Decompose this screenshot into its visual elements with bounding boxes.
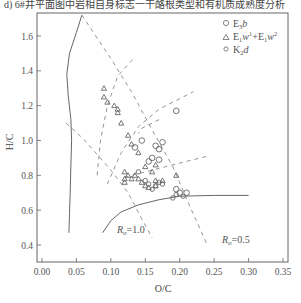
figure-caption: d) 6#井平面图中岩相自身标志一干酪根类型和有机质成熟度分析 — [4, 0, 285, 11]
svg-text:Ro=0.5: Ro=0.5 — [221, 234, 250, 247]
y-tick-label: 1.6 — [21, 32, 33, 42]
legend-label-e3b: E3b — [233, 18, 247, 30]
y-tick-label: 1.2 — [21, 101, 33, 111]
annot1-main: R — [116, 224, 123, 235]
annot1-tail: =1.0 — [127, 224, 145, 235]
data-point-series-1 — [132, 145, 138, 151]
data-point-series-1 — [146, 159, 152, 165]
data-point-series-2 — [136, 150, 141, 155]
data-point-series-2 — [125, 133, 130, 138]
evolution-dashed-line-1 — [82, 15, 207, 245]
data-point-series-1 — [173, 108, 179, 114]
x-tick-label: 0.25 — [206, 267, 223, 277]
data-point-series-2 — [105, 100, 110, 105]
x-tick-label: 0.30 — [240, 267, 257, 277]
chart: d) 6#井平面图中岩相自身标志一干酪根类型和有机质成熟度分析 0.000.05… — [0, 0, 301, 303]
data-point-series-1 — [173, 186, 179, 192]
data-point-series-1 — [160, 139, 166, 145]
data-point-series-2 — [129, 141, 134, 146]
data-point-series-3 — [136, 170, 140, 174]
data-point-series-3 — [143, 178, 147, 182]
data-point-series-1 — [156, 146, 162, 152]
ticks-layer: 0.000.050.100.150.200.250.300.350.40.60.… — [21, 32, 291, 278]
x-axis-title: O/C — [155, 283, 172, 294]
plot-frame — [37, 13, 288, 262]
x-tick-label: 0.10 — [103, 267, 120, 277]
y-axis-title: H/C — [4, 133, 15, 150]
y-tick-label: 0.4 — [21, 241, 33, 251]
annot2-tail: =0.5 — [232, 234, 250, 245]
legend: E3b E1w1+E1w2 K2d — [223, 18, 277, 56]
y-tick-label: 0.6 — [21, 206, 33, 216]
data-point-series-2 — [112, 103, 117, 108]
data-point-series-1 — [149, 155, 155, 161]
x-tick-label: 0.35 — [275, 267, 292, 277]
annotation-ro-1.0: Ro=1.0 — [116, 224, 145, 237]
annotation-ro-0.5: Ro=0.5 — [221, 234, 250, 247]
data-point-series-2 — [122, 169, 127, 174]
x-tick-label: 0.20 — [171, 267, 188, 277]
annot2-main: R — [221, 234, 228, 245]
legend-label-k2d: K2d — [233, 44, 249, 56]
data-point-series-2 — [150, 169, 155, 174]
x-tick-label: 0.00 — [34, 267, 51, 277]
data-point-series-1 — [139, 138, 145, 144]
data-point-series-2 — [101, 94, 106, 99]
data-point-series-2 — [153, 162, 158, 167]
boundary-curve-lower — [103, 195, 249, 232]
points-layer — [101, 86, 189, 201]
x-tick-label: 0.15 — [137, 267, 154, 277]
y-tick-label: 1.4 — [21, 66, 33, 76]
evolution-dashed-line-3 — [97, 57, 135, 175]
evolution-dashed-line-6 — [138, 120, 159, 134]
y-tick-label: 1.0 — [21, 136, 33, 146]
data-point-series-1 — [156, 157, 162, 163]
legend-label-e1w: E1w1+E1w2 — [233, 30, 277, 43]
data-point-series-2 — [101, 86, 106, 91]
data-point-series-1 — [153, 143, 159, 149]
legend-marker-k2d — [224, 47, 228, 51]
y-tick-label: 0.8 — [21, 171, 33, 181]
svg-text:Ro=1.0: Ro=1.0 — [116, 224, 145, 237]
legend-marker-e1w — [223, 35, 229, 40]
legend-marker-e3b — [223, 20, 228, 25]
data-point-series-2 — [143, 164, 148, 169]
data-point-series-2 — [119, 120, 124, 125]
x-tick-label: 0.05 — [68, 267, 85, 277]
boundary-curve-left — [67, 15, 82, 233]
curves-layer — [66, 15, 249, 245]
